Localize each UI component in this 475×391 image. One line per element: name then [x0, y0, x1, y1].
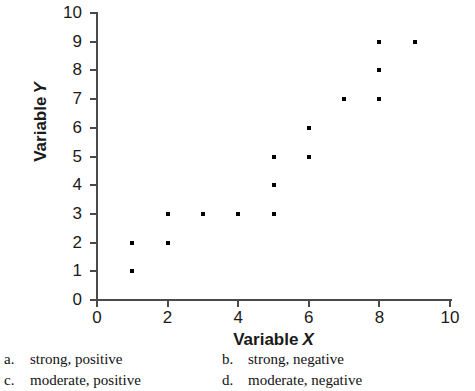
- x-axis-tick-label: 10: [435, 309, 465, 326]
- answer-option-b-key: b.: [222, 349, 248, 369]
- x-axis-tick-label: 4: [223, 309, 253, 326]
- y-axis-tick: [90, 12, 97, 14]
- data-point: [236, 212, 240, 216]
- x-axis-tick: [237, 300, 239, 307]
- x-axis-tick: [167, 300, 169, 307]
- data-point: [377, 40, 381, 44]
- y-axis-tick: [90, 98, 97, 100]
- answer-option-b[interactable]: b.strong, negative: [222, 349, 344, 369]
- data-point: [307, 155, 311, 159]
- answer-option-d-text: moderate, negative: [248, 372, 362, 388]
- data-point: [272, 155, 276, 159]
- y-axis-tick: [90, 69, 97, 71]
- data-point: [413, 40, 417, 44]
- data-point: [166, 241, 170, 245]
- x-axis-title: VariableX: [97, 330, 450, 350]
- y-axis-tick-label: 2: [56, 234, 82, 251]
- y-axis-tick-label: 7: [56, 90, 82, 107]
- data-point: [377, 68, 381, 72]
- y-axis-tick: [90, 127, 97, 129]
- data-point: [166, 212, 170, 216]
- x-axis-tick: [378, 300, 380, 307]
- x-axis-tick-label: 8: [364, 309, 394, 326]
- x-axis-tick: [308, 300, 310, 307]
- y-axis-tick-label: 9: [56, 33, 82, 50]
- x-axis-tick-label: 2: [153, 309, 183, 326]
- data-point: [130, 241, 134, 245]
- x-axis-tick: [449, 300, 451, 307]
- answer-option-c[interactable]: c.moderate, positive: [4, 370, 141, 390]
- x-axis-tick: [96, 300, 98, 307]
- y-axis-title: VariableY: [31, 62, 51, 182]
- answer-option-b-text: strong, negative: [248, 351, 344, 367]
- y-axis-tick: [90, 41, 97, 43]
- data-point: [342, 97, 346, 101]
- answer-option-a-key: a.: [4, 349, 30, 369]
- y-axis-tick: [90, 156, 97, 158]
- answer-option-d-key: d.: [222, 370, 248, 390]
- x-axis-tick-label: 6: [294, 309, 324, 326]
- x-axis-title-word: Variable: [233, 330, 298, 349]
- data-point: [272, 183, 276, 187]
- answer-option-a-text: strong, positive: [30, 351, 123, 367]
- y-axis-tick-label: 8: [56, 61, 82, 78]
- x-axis-tick-label: 0: [82, 309, 112, 326]
- data-point: [307, 126, 311, 130]
- x-axis-title-letter: X: [298, 330, 313, 349]
- answer-option-d[interactable]: d.moderate, negative: [222, 370, 362, 390]
- data-point: [201, 212, 205, 216]
- y-axis-tick-label: 3: [56, 205, 82, 222]
- answer-option-a[interactable]: a.strong, positive: [4, 349, 123, 369]
- y-axis-tick: [90, 242, 97, 244]
- y-axis-tick-label: 0: [56, 291, 82, 308]
- data-point: [130, 269, 134, 273]
- y-axis-tick-label: 10: [56, 4, 82, 21]
- data-point: [377, 97, 381, 101]
- y-axis-tick: [90, 184, 97, 186]
- y-axis-tick-label: 1: [56, 262, 82, 279]
- answer-option-c-key: c.: [4, 370, 30, 390]
- answer-option-c-text: moderate, positive: [30, 372, 141, 388]
- y-axis-tick-label: 5: [56, 148, 82, 165]
- y-axis-title-word: Variable: [31, 97, 50, 162]
- y-axis-tick-label: 6: [56, 119, 82, 136]
- y-axis-tick: [90, 270, 97, 272]
- y-axis-tick: [90, 213, 97, 215]
- y-axis-title-letter: Y: [31, 82, 50, 96]
- data-point: [272, 212, 276, 216]
- y-axis-tick-label: 4: [56, 176, 82, 193]
- scatter-plot-figure: 012345678910 0246810 VariableY VariableX: [0, 0, 475, 345]
- answer-options: a.strong, positive b.strong, negative c.…: [0, 349, 475, 391]
